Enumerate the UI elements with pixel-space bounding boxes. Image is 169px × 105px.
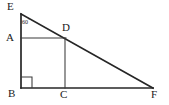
- vertex-label-C: C: [60, 89, 67, 100]
- angle-label-at-E: 60°: [22, 17, 30, 25]
- vertex-label-A: A: [6, 32, 14, 43]
- vertex-label-B: B: [8, 88, 15, 99]
- geometry-canvas: [0, 0, 169, 105]
- vertex-label-F: F: [151, 89, 157, 100]
- right-angle-marker-icon: [21, 77, 32, 88]
- degree-symbol-icon: °: [28, 17, 30, 22]
- segment-EF: [21, 14, 153, 88]
- geometry-figure: E A B C D F 60°: [0, 0, 169, 105]
- vertex-label-D: D: [62, 22, 70, 33]
- vertex-label-E: E: [7, 1, 14, 12]
